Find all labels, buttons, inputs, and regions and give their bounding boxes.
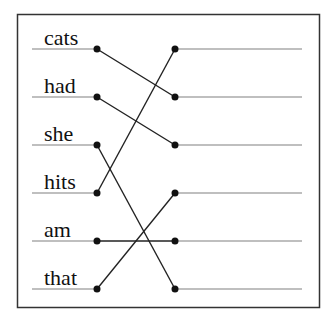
left-word: am [44,217,71,242]
frame [18,15,320,308]
left-row-hits: hits [32,169,97,194]
left-word: hits [44,169,76,194]
connector-cats-to-2 [97,49,175,97]
left-word: she [44,121,73,146]
dot-icon[interactable] [172,94,179,101]
dot-icon[interactable] [172,46,179,53]
connector-hits-to-1 [97,49,175,193]
dot-icon[interactable] [94,286,101,293]
dot-icon[interactable] [94,142,101,149]
left-word: had [44,73,76,98]
left-word: that [44,265,77,290]
dot-icon[interactable] [94,190,101,197]
dot-icon[interactable] [172,142,179,149]
dot-icon[interactable] [172,190,179,197]
left-row-she: she [32,121,97,146]
left-dots [94,46,101,293]
dot-icon[interactable] [94,238,101,245]
left-row-that: that [32,265,97,290]
left-word: cats [44,25,78,50]
right-dots [172,46,179,293]
left-row-am: am [32,217,97,242]
left-column: cats had she hits am that [32,25,97,290]
dot-icon[interactable] [94,94,101,101]
connector-she-to-6 [97,145,175,289]
matching-diagram: cats had she hits am that [0,0,332,318]
connectors [97,49,175,289]
dot-icon[interactable] [172,286,179,293]
right-column [175,49,302,289]
left-row-cats: cats [32,25,97,50]
left-row-had: had [32,73,97,98]
dot-icon[interactable] [172,238,179,245]
dot-icon[interactable] [94,46,101,53]
